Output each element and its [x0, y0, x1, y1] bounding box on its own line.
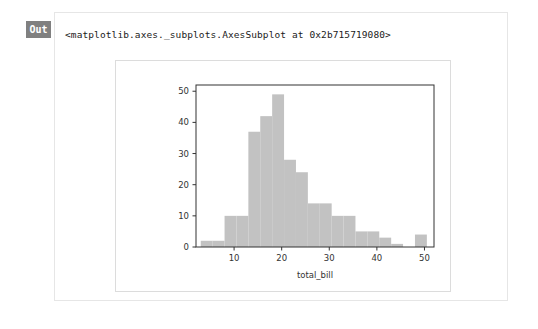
histogram-bar: [379, 238, 391, 247]
histogram-bar: [213, 241, 225, 247]
x-tick-label: 30: [324, 253, 335, 263]
histogram-bar: [296, 172, 308, 247]
x-tick-label: 50: [419, 253, 430, 263]
histogram-bar: [284, 160, 296, 247]
histogram-bar: [320, 203, 332, 247]
histogram-bar: [260, 116, 272, 247]
y-tick-label: 50: [178, 86, 189, 96]
histogram-bar: [201, 241, 213, 247]
histogram-svg: 010203040501020304050total_bill: [116, 61, 450, 291]
y-tick-label: 40: [178, 117, 189, 127]
output-result-card: <matplotlib.axes._subplots.AxesSubplot a…: [54, 12, 508, 301]
histogram-bar: [367, 231, 379, 247]
matplotlib-figure: 010203040501020304050total_bill: [115, 60, 451, 292]
histogram-bar: [225, 216, 237, 247]
histogram-plot: 010203040501020304050total_bill: [116, 61, 450, 291]
x-tick-label: 40: [371, 253, 382, 263]
y-tick-label: 30: [178, 149, 189, 159]
histogram-bar: [344, 216, 356, 247]
histogram-bar: [236, 216, 248, 247]
x-axis-label: total_bill: [297, 270, 333, 280]
histogram-bar: [248, 132, 260, 247]
histogram-bar: [272, 94, 284, 247]
x-tick-label: 20: [276, 253, 287, 263]
output-prompt-badge: Out: [26, 21, 51, 38]
histogram-bar: [415, 235, 427, 247]
y-tick-label: 0: [184, 242, 189, 252]
histogram-bar: [355, 231, 367, 247]
histogram-bar: [332, 216, 344, 247]
axes-repr-text: <matplotlib.axes._subplots.AxesSubplot a…: [65, 29, 391, 40]
x-tick-label: 10: [229, 253, 240, 263]
y-tick-label: 20: [178, 180, 189, 190]
y-tick-label: 10: [178, 211, 189, 221]
notebook-output-cell: Out <matplotlib.axes._subplots.AxesSubpl…: [0, 0, 538, 329]
histogram-bar: [308, 203, 320, 247]
